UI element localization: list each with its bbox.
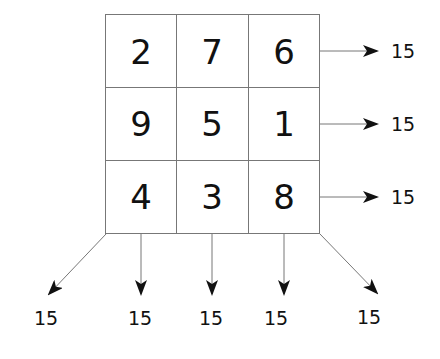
column-sum-1: 15: [128, 307, 152, 329]
magic-square-diagram: 2 7 6 9 5 1 4 3 8 15 15 15 15 15 15 15 1…: [0, 0, 440, 359]
column-sums: 15 15 15 15 15: [34, 306, 381, 329]
cell-r2c2: 5: [201, 104, 223, 144]
column-sum-2: 15: [199, 307, 223, 329]
column-sum-3: 15: [264, 307, 288, 329]
cell-r3c3: 8: [273, 177, 295, 217]
row-sums: 15 15 15: [391, 40, 415, 208]
cell-r2c3: 1: [273, 104, 295, 144]
cell-r1c2: 7: [201, 32, 223, 72]
column-arrows: [49, 234, 377, 294]
diagonal-sum-left: 15: [34, 307, 58, 329]
row-sum-2: 15: [391, 113, 415, 135]
arrow-down-left-icon: [49, 234, 106, 294]
arrow-down-right-icon: [320, 234, 377, 293]
cell-r2c1: 9: [130, 104, 152, 144]
grid-numbers: 2 7 6 9 5 1 4 3 8: [130, 32, 295, 217]
row-arrows: [320, 51, 377, 197]
cell-r1c1: 2: [130, 32, 152, 72]
row-sum-1: 15: [391, 40, 415, 62]
cell-r1c3: 6: [273, 32, 295, 72]
row-sum-3: 15: [391, 186, 415, 208]
cell-r3c2: 3: [201, 177, 223, 217]
diagonal-sum-right: 15: [357, 306, 381, 328]
cell-r3c1: 4: [130, 177, 152, 217]
